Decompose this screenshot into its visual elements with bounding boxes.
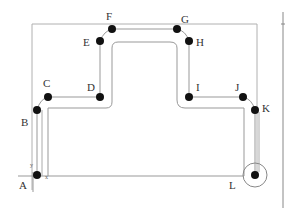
point-H-label: H [196, 36, 204, 48]
y-axis-label: y [30, 162, 33, 168]
point-E-marker [96, 37, 104, 45]
point-G-label: G [181, 13, 189, 25]
point-K-marker [251, 106, 259, 114]
point-A-marker [33, 171, 41, 179]
point-L-marker [251, 171, 259, 179]
point-L-label: L [229, 179, 236, 191]
point-D-marker [96, 93, 104, 101]
tool-path [37, 29, 255, 176]
point-I-marker [185, 93, 193, 101]
point-J-marker [239, 93, 247, 101]
point-C-marker [44, 93, 52, 101]
point-H-marker [185, 37, 193, 45]
point-J-label: J [235, 81, 240, 93]
point-C-label: C [43, 77, 50, 89]
point-E-label: E [83, 36, 90, 48]
point-I-label: I [196, 81, 200, 93]
point-A-label: A [19, 179, 27, 191]
point-B-label: B [21, 116, 28, 128]
workpiece-contour [18, 42, 244, 176]
outer-frame [32, 24, 257, 190]
point-B-marker [33, 106, 41, 114]
point-F-marker [108, 25, 116, 33]
toolpath-diagram: y x A B C D E F G H I J K L [0, 0, 289, 208]
point-K-label: K [262, 102, 270, 114]
point-F-label: F [106, 10, 112, 22]
point-D-label: D [87, 81, 95, 93]
x-axis-label: x [45, 174, 48, 180]
point-G-marker [173, 25, 181, 33]
